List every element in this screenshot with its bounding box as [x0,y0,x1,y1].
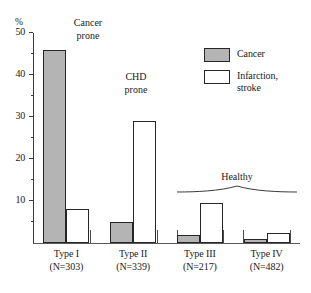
y-tick-minor-5 [31,221,34,222]
x-separator [90,230,91,243]
legend-label-infarction-line1: Infarction, [237,70,278,82]
y-tick-10: 10 [29,200,33,201]
x-group-name: Type IV [251,248,283,259]
legend-swatch-infarction-icon [204,70,230,84]
y-tick-30: 30 [29,116,33,117]
bar-chart: % 1020304050 Type I(N=303)Type II(N=339)… [0,0,311,293]
x-group-name: Type II [119,248,147,259]
legend-label-cancer-line1: Cancer [237,48,265,60]
callout-cancer-prone-line2: prone [48,30,128,43]
y-tick-minor-15 [31,179,34,180]
x-group-name: Type I [54,248,79,259]
legend-label-infarction: Infarction, stroke [237,70,278,93]
legend-swatch-cancer-icon [204,48,230,62]
x-group-sample-size: (N=482) [227,261,307,274]
y-tick-minor-25 [31,137,34,138]
y-tick-label-10: 10 [15,193,25,206]
bar-type-ii-infarction-stroke [133,121,156,243]
bar-type-ii-cancer [110,222,133,243]
callout-cancer-prone-line1: Cancer [48,17,128,30]
x-separator [290,230,291,243]
y-tick-20: 20 [29,158,33,159]
x-group-label-type-iv: Type IV(N=482) [227,248,307,273]
y-tick-40: 40 [29,74,33,75]
healthy-bracket: Healthy [176,171,298,195]
legend-item-cancer: Cancer [204,48,304,62]
bar-type-iii-cancer [177,235,200,243]
x-separator [157,230,158,243]
healthy-bracket-label: Healthy [176,171,298,183]
y-tick-label-30: 30 [15,109,25,122]
bar-type-i-cancer [43,50,66,243]
legend-label-cancer: Cancer [237,48,265,60]
y-tick-minor-35 [31,95,34,96]
y-tick-label-50: 50 [15,25,25,38]
bar-type-iii-infarction-stroke [200,203,223,243]
y-axis-line [33,33,34,243]
y-tick-50: 50 [29,32,33,33]
bar-type-i-infarction-stroke [66,209,89,243]
x-separator [223,230,224,243]
callout-cancer-prone: Cancer prone [48,17,128,42]
x-axis-line [33,243,300,244]
y-tick-label-40: 40 [15,67,25,80]
curly-brace-icon [176,184,298,194]
callout-chd-prone-line1: CHD [105,71,167,84]
chart-legend: Cancer Infarction, stroke [204,48,304,101]
x-group-name: Type III [184,248,216,259]
legend-item-infarction: Infarction, stroke [204,70,304,93]
bar-type-iv-cancer [244,239,267,243]
y-tick-label-20: 20 [15,151,25,164]
callout-chd-prone-line2: prone [105,84,167,97]
callout-chd-prone: CHD prone [105,71,167,96]
legend-label-infarction-line2: stroke [237,82,278,94]
bar-type-iv-infarction-stroke [267,233,290,244]
y-tick-minor-45 [31,53,34,54]
